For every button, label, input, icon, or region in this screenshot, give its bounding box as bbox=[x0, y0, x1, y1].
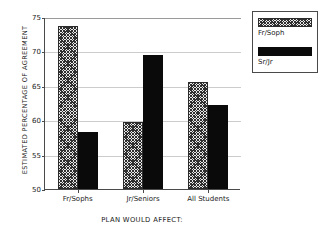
bar-fr-soph-jr-seniors bbox=[123, 122, 143, 189]
x-axis-title: PLAN WOULD AFFECT: bbox=[44, 216, 240, 224]
legend-swatch-hatch bbox=[258, 18, 312, 27]
bar-sr-jr-jr-seniors bbox=[143, 55, 163, 189]
x-tick-label: Jr/Seniors bbox=[126, 195, 159, 203]
y-tick-mark bbox=[42, 52, 45, 53]
y-tick-mark bbox=[42, 18, 45, 19]
y-tick-mark bbox=[42, 87, 45, 88]
x-tick-label: Fr/Sophs bbox=[63, 195, 93, 203]
y-tick-mark bbox=[42, 190, 45, 191]
x-tick-mark bbox=[143, 189, 144, 193]
x-tick-mark bbox=[208, 189, 209, 193]
x-tick-mark bbox=[78, 189, 79, 193]
chart-legend: Fr/SophSr/Jr bbox=[252, 11, 318, 73]
bar-sr-jr-fr-sophs bbox=[78, 132, 98, 189]
plot-area: 757065605550Fr/SophsJr/SeniorsAll Studen… bbox=[44, 18, 240, 190]
y-tick-label: 55 bbox=[32, 152, 41, 160]
bar-fr-soph-all-students bbox=[188, 82, 208, 189]
y-tick-label: 50 bbox=[32, 186, 41, 194]
y-tick-mark bbox=[42, 156, 45, 157]
legend-item-fr-soph: Fr/Soph bbox=[258, 18, 314, 37]
bar-fr-soph-fr-sophs bbox=[58, 26, 78, 189]
y-tick-label: 75 bbox=[32, 14, 41, 22]
y-tick-mark bbox=[42, 121, 45, 122]
x-tick-label: All Students bbox=[187, 195, 229, 203]
y-tick-label: 60 bbox=[32, 117, 41, 125]
legend-item-sr-jr: Sr/Jr bbox=[258, 47, 314, 66]
bar-chart-figure: ESTIMATED PERCENTAGE OF AGREEMENT 757065… bbox=[0, 0, 321, 237]
y-tick-label: 65 bbox=[32, 83, 41, 91]
legend-label: Fr/Soph bbox=[258, 29, 314, 37]
bar-sr-jr-all-students bbox=[208, 105, 228, 189]
legend-swatch-solid bbox=[258, 47, 312, 56]
legend-label: Sr/Jr bbox=[258, 58, 314, 66]
y-axis-title: ESTIMATED PERCENTAGE OF AGREEMENT bbox=[21, 12, 29, 188]
y-gridline bbox=[45, 18, 241, 19]
y-tick-label: 70 bbox=[32, 48, 41, 56]
